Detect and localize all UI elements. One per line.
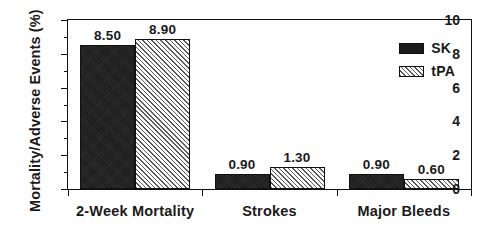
legend-label-tpa: tPA <box>431 63 455 79</box>
x-axis-category-label: Major Bleeds <box>358 203 451 219</box>
bar-tpa-3: 0.60 <box>404 179 459 189</box>
y-axis-tick <box>61 20 68 21</box>
bar-sk-1: 8.50 <box>80 45 135 189</box>
y-axis-minor-tick <box>64 71 68 72</box>
chart-legend: SK tPA <box>399 40 455 79</box>
y-axis-tick <box>61 88 68 89</box>
y-axis-title: Mortality/Adverse Events (%) <box>27 12 43 212</box>
x-axis-category-label: 2-Week Mortality <box>76 203 194 219</box>
plot-frame: 8.508.900.901.300.900.60 SK tPA 02468102… <box>67 19 472 190</box>
bar-value-label: 0.90 <box>228 157 255 172</box>
bar-sk-3: 0.90 <box>349 174 404 189</box>
bar-value-label: 8.90 <box>149 22 176 37</box>
y-axis-minor-tick <box>64 172 68 173</box>
bar-value-label: 1.30 <box>283 150 310 165</box>
y-axis-minor-tick <box>64 138 68 139</box>
y-axis-tick <box>61 155 68 156</box>
bar-value-label: 8.50 <box>94 28 121 43</box>
y-axis-minor-tick <box>64 105 68 106</box>
bar-tpa-1: 8.90 <box>135 39 190 189</box>
bar-value-label: 0.60 <box>418 162 445 177</box>
y-axis-tick-label: 8 <box>452 46 460 62</box>
x-axis-tick <box>337 189 338 196</box>
y-axis-tick-label: 6 <box>452 80 460 96</box>
y-axis-tick <box>61 121 68 122</box>
x-axis-tick <box>471 189 472 196</box>
y-axis-tick <box>61 189 68 190</box>
legend-item-tpa: tPA <box>399 63 455 79</box>
bar-tpa-2: 1.30 <box>270 167 325 189</box>
bar-value-label: 0.90 <box>363 157 390 172</box>
x-axis-tick <box>68 189 69 196</box>
y-axis-tick-label: 0 <box>452 181 460 197</box>
x-axis-tick <box>202 189 203 196</box>
y-axis-tick-label: 2 <box>452 147 460 163</box>
y-axis-tick-label: 10 <box>444 12 460 28</box>
legend-swatch-tpa-icon <box>399 66 424 77</box>
bar-sk-2: 0.90 <box>215 174 270 189</box>
x-axis-category-label: Strokes <box>242 203 297 219</box>
legend-swatch-sk-icon <box>399 43 424 54</box>
legend-item-sk: SK <box>399 40 455 56</box>
y-axis-tick-label: 4 <box>452 113 460 129</box>
y-axis-minor-tick <box>64 37 68 38</box>
y-axis-tick <box>61 54 68 55</box>
legend-label-sk: SK <box>431 40 451 56</box>
bar-chart-figure: Mortality/Adverse Events (%) 8.508.900.9… <box>0 0 495 232</box>
